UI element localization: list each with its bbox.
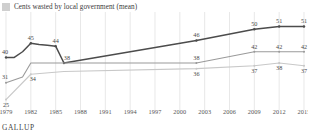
data-point	[195, 62, 197, 64]
data-label: 38	[64, 54, 70, 61]
chart-legend: Cents wasted by local government (mean)	[2, 2, 137, 12]
data-label: 25	[3, 101, 9, 108]
data-label: 42	[276, 43, 282, 50]
legend-label: Cents wasted by local government (mean)	[14, 3, 137, 11]
data-label: 50	[251, 20, 257, 27]
chart-page: Cents wasted by local government (mean) …	[0, 0, 308, 137]
x-axis-tick-label: 2003	[198, 108, 211, 115]
data-label: 31	[2, 73, 8, 80]
legend-swatch-icon	[2, 3, 10, 11]
gridlines	[6, 12, 304, 110]
data-point	[5, 82, 7, 84]
data-label: 36	[193, 70, 199, 77]
data-label: 42	[251, 43, 257, 50]
data-label: 46	[193, 31, 199, 38]
x-axis-tick-label: 1979	[0, 108, 13, 115]
x-axis-tick-label: 1991	[99, 108, 112, 115]
x-axis-tick-label: 1994	[124, 108, 137, 115]
x-axis-ticks: 1979198219851988199119941997200020032006…	[0, 108, 308, 120]
data-label: 42	[301, 43, 307, 50]
plot-area: 40454438465051513138424242253436373837	[0, 12, 308, 110]
x-axis-tick-label: 1997	[149, 108, 162, 115]
data-label: 40	[2, 48, 8, 55]
data-point	[30, 42, 32, 44]
data-point	[303, 51, 305, 53]
x-axis-tick-label: 2006	[223, 108, 236, 115]
data-label: 44	[53, 37, 59, 44]
data-point	[54, 45, 56, 47]
x-axis-tick-label: 1988	[74, 108, 87, 115]
x-axis-tick-label: 2015	[298, 108, 309, 115]
data-point	[253, 51, 255, 53]
data-point	[278, 25, 280, 27]
data-label: 51	[301, 17, 307, 24]
data-label: 45	[28, 34, 34, 41]
line-chart-svg: 40454438465051513138424242253436373837	[0, 12, 308, 110]
data-label: 37	[301, 67, 307, 74]
data-point	[253, 28, 255, 30]
data-label: 38	[193, 54, 199, 61]
data-label: 34	[30, 75, 36, 82]
x-axis-tick-label: 2009	[248, 108, 261, 115]
x-axis-tick-label: 1982	[24, 108, 37, 115]
data-point	[278, 51, 280, 53]
data-label: 38	[276, 64, 282, 71]
data-point	[303, 25, 305, 27]
data-label: 37	[251, 67, 257, 74]
data-point	[195, 39, 197, 41]
data-point	[5, 56, 7, 58]
data-label: 51	[276, 17, 282, 24]
x-axis-tick-label: 2012	[273, 108, 286, 115]
x-axis-tick-label: 1985	[49, 108, 62, 115]
gallup-logo: GALLUP	[2, 123, 35, 132]
x-axis-tick-label: 2000	[173, 108, 186, 115]
